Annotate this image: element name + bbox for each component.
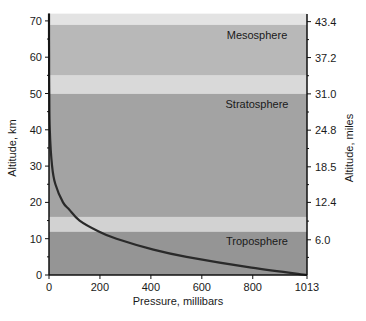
y2-tick-label: 37.2 [315, 52, 336, 64]
layer-label: Troposphere [226, 235, 288, 247]
y2-tick-label: 12.4 [315, 196, 336, 208]
y-tick-label: 0 [36, 269, 42, 281]
y-tick-label: 60 [30, 51, 42, 63]
x-tick-label: 200 [91, 281, 109, 293]
y-axis-title: Altitude, km [6, 119, 18, 176]
y-tick-label: 20 [30, 196, 42, 208]
y2-tick-label: 18.5 [315, 161, 336, 173]
x-tick-label: 400 [142, 281, 160, 293]
layer-band [49, 14, 307, 25]
y2-axis-title: Altitude, miles [343, 113, 355, 182]
y-tick-label: 70 [30, 15, 42, 27]
y-tick-label: 50 [30, 88, 42, 100]
layer-band [49, 217, 307, 232]
x-tick-label: 1013 [295, 281, 319, 293]
y2-tick-label: 31.0 [315, 88, 336, 100]
layer-band [49, 94, 307, 217]
x-tick-label: 600 [193, 281, 211, 293]
layer-label: Stratosphere [226, 98, 289, 110]
y-tick-label: 30 [30, 160, 42, 172]
pressure-altitude-chart: MesosphereStratosphereTroposphere 010203… [0, 0, 366, 321]
y-tick-label: 10 [30, 233, 42, 245]
y2-tick-label: 6.0 [315, 234, 330, 246]
y2-tick-label: 24.8 [315, 124, 336, 136]
y-tick-label: 40 [30, 124, 42, 136]
x-tick-label: 0 [46, 281, 52, 293]
y2-tick-label: 43.4 [315, 16, 336, 28]
x-tick-label: 800 [244, 281, 262, 293]
x-axis-title: Pressure, millibars [133, 295, 224, 307]
layer-label: Mesosphere [227, 29, 288, 41]
layer-band [49, 75, 307, 93]
